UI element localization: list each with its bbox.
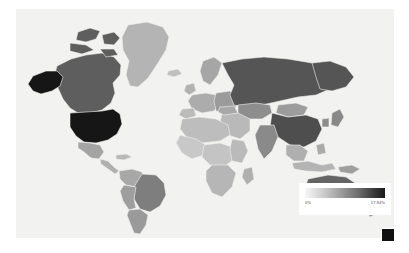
map-legend: 0% 17.94%: [299, 183, 391, 215]
region-peru-bolivia[interactable]: [120, 185, 136, 210]
region-canada-arctic[interactable]: [76, 28, 100, 42]
region-canada-arctic-2[interactable]: [102, 32, 120, 45]
region-southeast-asia[interactable]: [286, 145, 308, 161]
region-central-africa[interactable]: [202, 143, 234, 167]
region-madagascar[interactable]: [242, 167, 254, 185]
legend-min-label: 0%: [305, 200, 311, 206]
region-alaska[interactable]: [28, 71, 63, 94]
region-indonesia[interactable]: [292, 161, 336, 172]
region-east-africa[interactable]: [230, 139, 248, 163]
region-caribbean[interactable]: [116, 154, 132, 160]
region-scandinavia[interactable]: [200, 57, 222, 85]
choropleth-map-figure: 0% 17.94%: [0, 0, 409, 253]
region-canada-arctic-3[interactable]: [70, 43, 94, 54]
region-mexico[interactable]: [78, 142, 104, 159]
region-papua-new-guinea[interactable]: [338, 165, 360, 174]
region-argentina-chile[interactable]: [127, 209, 148, 234]
region-central-america[interactable]: [100, 159, 119, 174]
region-india[interactable]: [255, 125, 278, 159]
region-iceland[interactable]: [167, 69, 182, 77]
legend-gradient-bar: [305, 188, 385, 198]
region-british-isles[interactable]: [184, 83, 196, 95]
region-turkey[interactable]: [218, 106, 238, 115]
region-iberia[interactable]: [179, 108, 196, 119]
region-japan[interactable]: [331, 109, 344, 127]
region-southern-africa[interactable]: [206, 165, 236, 197]
region-greenland[interactable]: [122, 22, 169, 87]
world-map-panel[interactable]: 0% 17.94%: [16, 9, 394, 238]
legend-labels: 0% 17.94%: [305, 200, 385, 206]
region-korea[interactable]: [322, 118, 329, 127]
corner-marker-swatch[interactable]: [381, 228, 395, 242]
region-brazil[interactable]: [134, 174, 166, 212]
region-united-states[interactable]: [70, 109, 122, 143]
region-canada[interactable]: [54, 53, 121, 113]
region-philippines[interactable]: [316, 143, 326, 155]
legend-max-label: 17.94%: [371, 200, 385, 206]
region-china[interactable]: [270, 113, 322, 147]
